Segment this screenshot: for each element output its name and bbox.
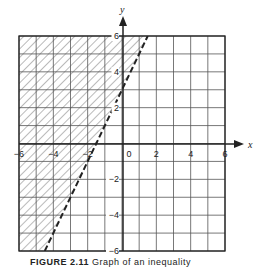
y-tick-label: −6 <box>109 246 119 256</box>
x-tick-label: 0 <box>126 149 131 159</box>
x-axis-label: x <box>247 139 253 150</box>
caption-text: Graph of an inequality <box>92 257 191 267</box>
x-tick-label: 6 <box>222 149 227 159</box>
x-tick-label: −4 <box>48 149 58 159</box>
y-tick-label: −4 <box>109 210 119 220</box>
x-axis-arrow-icon <box>234 140 244 148</box>
y-axis-arrow-icon <box>119 16 127 26</box>
x-tick-label: −2 <box>83 149 93 159</box>
x-tick-label: 4 <box>188 149 193 159</box>
caption-figure-number: FIGURE 2.11 <box>30 257 89 267</box>
y-tick-label: 2 <box>114 103 119 113</box>
y-tick-label: −2 <box>109 174 119 184</box>
figure-caption: FIGURE 2.11 Graph of an inequality <box>30 257 191 267</box>
y-tick-label: 6 <box>114 31 119 41</box>
x-tick-label: −6 <box>14 149 24 159</box>
y-tick-label: 4 <box>114 67 119 77</box>
x-tick-label: 2 <box>154 149 159 159</box>
y-axis-label: y <box>119 4 125 15</box>
